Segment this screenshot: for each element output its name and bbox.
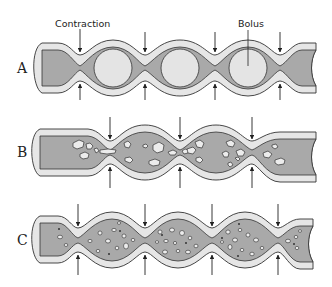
row-label-a: A [16, 60, 28, 76]
row-a: A Contraction Bolus [16, 18, 316, 100]
row-label-c: C [17, 232, 28, 248]
tube-a [34, 40, 316, 96]
row-b: B [17, 117, 316, 188]
bolus-label: Bolus [238, 18, 264, 29]
tube-b [32, 125, 316, 182]
bolus-1 [94, 49, 132, 87]
bolus-2 [161, 49, 199, 87]
intestine-diagram: A Contraction Bolus B [0, 0, 332, 287]
row-c: C [17, 204, 313, 275]
tube-c [32, 212, 313, 269]
row-label-b: B [17, 144, 27, 160]
contraction-label: Contraction [55, 18, 110, 29]
